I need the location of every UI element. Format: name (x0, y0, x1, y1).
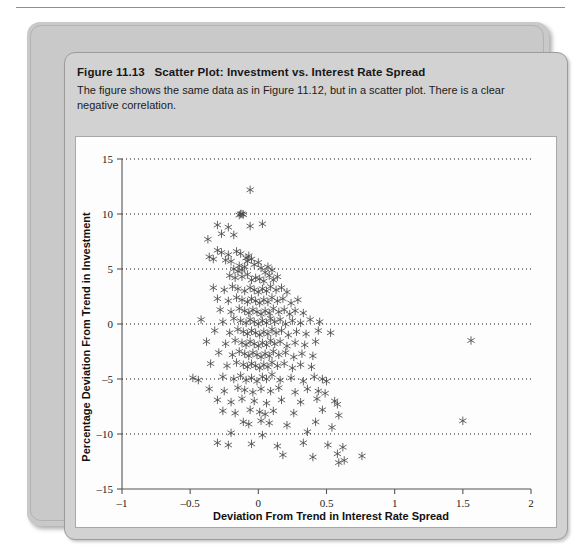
data-point (189, 374, 196, 382)
data-point (341, 456, 348, 464)
data-point (229, 282, 236, 290)
data-point (242, 319, 249, 327)
data-point (277, 376, 284, 384)
data-point (290, 409, 297, 417)
data-point (272, 329, 279, 337)
figure-title: Figure 11.13 Scatter Plot: Investment vs… (77, 65, 555, 80)
data-point (227, 429, 234, 437)
data-point (283, 342, 290, 350)
scatter-plot: –1–0.500.511.52 –15–10–5051015 Deviation… (76, 137, 556, 527)
data-point (316, 318, 323, 326)
top-divider-rule (16, 7, 565, 8)
data-point (459, 417, 466, 425)
data-point (311, 373, 318, 381)
data-point (319, 406, 326, 414)
data-point (257, 385, 264, 393)
data-point (247, 406, 254, 414)
data-point (300, 377, 307, 385)
data-point (298, 350, 305, 358)
data-point (315, 326, 322, 334)
data-point (300, 309, 307, 317)
data-point (211, 326, 218, 334)
data-point (251, 397, 258, 405)
data-point (301, 341, 308, 349)
data-point (247, 186, 254, 194)
x-tick-label: 1 (392, 497, 398, 509)
data-point (225, 441, 232, 449)
data-point (230, 375, 237, 383)
data-point (249, 388, 256, 396)
data-point (226, 329, 233, 337)
data-point (248, 440, 255, 448)
chart-canvas: –1–0.500.511.52 –15–10–5051015 Deviation… (75, 136, 557, 528)
data-point (233, 293, 240, 301)
data-point (234, 325, 241, 333)
data-point (218, 230, 225, 238)
data-point (274, 362, 281, 370)
data-point (297, 361, 304, 369)
data-point (238, 273, 245, 281)
data-point (279, 451, 286, 459)
data-point (268, 325, 275, 333)
data-point (207, 359, 214, 367)
data-point (287, 299, 294, 307)
data-point (315, 387, 322, 395)
figure-caption-text: The figure shows the same data as in Fig… (77, 83, 549, 112)
y-tick-label: 10 (102, 208, 114, 220)
data-point (302, 330, 309, 338)
data-point (335, 411, 342, 419)
data-point (308, 363, 315, 371)
data-point (285, 331, 292, 339)
data-points (189, 186, 474, 467)
data-point (335, 458, 342, 466)
y-tick-label: –10 (96, 428, 114, 440)
data-point (219, 407, 226, 415)
data-point (214, 295, 221, 303)
data-point (292, 307, 299, 315)
figure-panel: Figure 11.13 Scatter Plot: Investment vs… (64, 52, 568, 540)
data-point (229, 351, 236, 359)
data-point (241, 386, 248, 394)
data-point (234, 384, 241, 392)
y-tick-label: 15 (102, 153, 114, 165)
y-tick-label: –15 (96, 483, 114, 495)
data-point (297, 319, 304, 327)
figure-title-text: Scatter Plot: Investment vs. Interest Ra… (155, 66, 426, 78)
data-point (292, 388, 299, 396)
data-point (223, 362, 230, 370)
data-point (271, 318, 278, 326)
x-tick-label: –1 (116, 497, 128, 509)
data-point (221, 387, 228, 395)
data-point (225, 223, 232, 231)
data-point (287, 374, 294, 382)
y-axis-title: Percentage Deviation From Trend in Inves… (80, 212, 92, 462)
data-point (227, 398, 234, 406)
data-point (312, 418, 319, 426)
data-point (262, 410, 269, 418)
data-point (268, 293, 275, 301)
data-point (275, 308, 282, 316)
data-point (210, 284, 217, 292)
data-point (217, 306, 224, 314)
data-point (270, 407, 277, 415)
data-point (307, 315, 314, 323)
data-point (232, 336, 239, 344)
y-tick-label: 5 (108, 263, 114, 275)
data-point (322, 389, 329, 397)
data-point (204, 235, 211, 243)
data-point (197, 315, 204, 323)
data-point (248, 374, 255, 382)
data-point (240, 418, 247, 426)
x-tick-label: 2 (528, 497, 534, 509)
data-point (275, 384, 282, 392)
data-point (300, 439, 307, 447)
data-point (236, 304, 243, 312)
data-point (267, 314, 274, 322)
data-point (238, 395, 245, 403)
x-tick-label: 0.5 (320, 497, 334, 509)
data-point (225, 297, 232, 305)
data-point (214, 439, 221, 447)
data-point (270, 347, 277, 355)
data-point (203, 337, 210, 345)
data-point (274, 273, 281, 281)
